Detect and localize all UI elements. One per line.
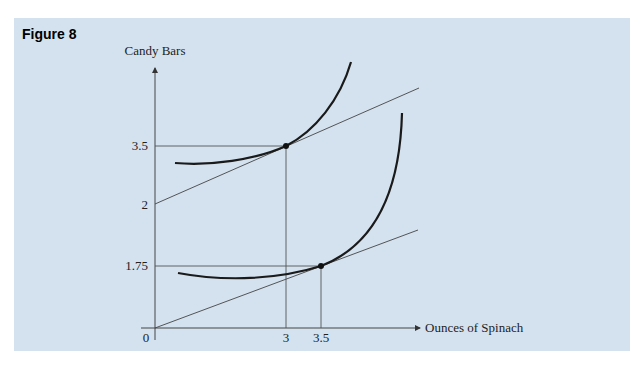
upper-tangency-point <box>283 143 289 149</box>
upper-indifference-curve <box>175 62 351 164</box>
lower-budget-line <box>155 230 418 328</box>
x-axis-label: Ounces of Spinach <box>425 320 524 335</box>
y-tick-1-75: 1.75 <box>125 258 148 273</box>
y-axis-label: Candy Bars <box>124 43 185 58</box>
y-tick-2: 2 <box>142 197 149 212</box>
chart-canvas: Candy Bars Ounces of Spinach 3.5 2 1.75 … <box>0 0 644 370</box>
y-tick-3-5: 3.5 <box>132 138 148 153</box>
x-tick-3-5: 3.5 <box>313 330 329 345</box>
lower-indifference-curve <box>178 113 402 278</box>
x-tick-0: 0 <box>143 330 150 345</box>
lower-tangency-point <box>318 263 324 269</box>
x-tick-3: 3 <box>283 330 290 345</box>
guide-lines <box>155 146 321 328</box>
